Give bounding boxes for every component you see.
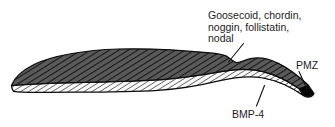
figure-root: Goosecoid, chordin, noggin, follistatin,…: [0, 0, 335, 127]
bmp4-label: BMP-4: [232, 108, 264, 120]
organizer-signals-line-2: noggin, follistatin,: [208, 21, 289, 33]
organizer-signals-line-3: nodal: [208, 32, 234, 44]
pmz-label: PMZ: [296, 59, 319, 71]
embryo-section-diagram: Goosecoid, chordin, noggin, follistatin,…: [0, 0, 335, 127]
organizer-signals-line-1: Goosecoid, chordin,: [208, 9, 301, 21]
